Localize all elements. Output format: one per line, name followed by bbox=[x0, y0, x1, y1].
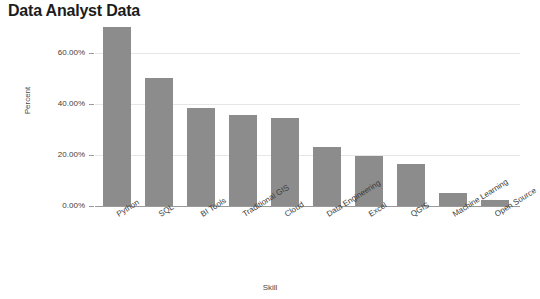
y-tick-mark bbox=[89, 206, 94, 207]
y-tick-label: 60.00% bbox=[33, 48, 85, 57]
y-axis-title: Percent bbox=[23, 71, 32, 131]
y-tick-mark bbox=[89, 53, 94, 54]
bar-data-engineering[interactable] bbox=[313, 147, 341, 206]
y-tick-label: 40.00% bbox=[33, 99, 85, 108]
y-tick-mark bbox=[89, 155, 94, 156]
chart-title: Data Analyst Data bbox=[8, 2, 140, 20]
y-tick-label: 0.00% bbox=[33, 201, 85, 210]
bar-traditional-gis[interactable] bbox=[229, 115, 257, 206]
y-tick-label: 20.00% bbox=[33, 150, 85, 159]
bar-qgis[interactable] bbox=[397, 164, 425, 206]
bar-chart: Data Analyst Data Percent 0.00%20.00%40.… bbox=[0, 0, 540, 299]
plot-area bbox=[95, 22, 520, 206]
bar-python[interactable] bbox=[103, 27, 131, 206]
x-axis-title: Skill bbox=[0, 283, 540, 292]
bar-sql[interactable] bbox=[145, 78, 173, 206]
gridline-60.00% bbox=[95, 53, 520, 54]
bar-bi-tools[interactable] bbox=[187, 108, 215, 206]
y-tick-mark bbox=[89, 104, 94, 105]
